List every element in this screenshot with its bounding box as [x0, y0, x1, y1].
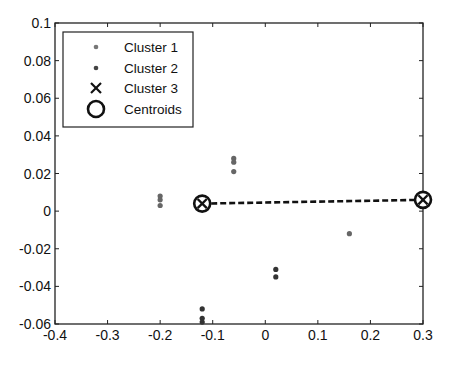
legend-label: Centroids — [124, 102, 182, 117]
x-tick-label: 0.2 — [361, 327, 381, 343]
series-cluster-2 — [200, 267, 279, 325]
legend-marker-icon — [94, 45, 99, 50]
x-tick-label: 0 — [261, 327, 269, 343]
x-tick-label: -0.1 — [201, 327, 225, 343]
x-tick-label: 0.3 — [413, 327, 433, 343]
y-tick-label: 0.06 — [24, 90, 51, 106]
y-tick-label: 0.1 — [32, 15, 52, 31]
dashed-connector-line — [202, 200, 423, 204]
y-tick-label: 0 — [43, 203, 51, 219]
legend-label: Cluster 1 — [124, 40, 178, 55]
y-tick-label: -0.02 — [19, 241, 51, 257]
y-tick-label: -0.06 — [19, 316, 51, 332]
y-tick-label: 0.08 — [24, 53, 51, 69]
legend-marker-icon — [94, 66, 99, 71]
y-tick-label: -0.04 — [19, 278, 51, 294]
centroid-connector — [202, 200, 423, 204]
x-tick-label: 0.1 — [308, 327, 328, 343]
y-tick-label: 0.04 — [24, 128, 51, 144]
legend-label: Cluster 3 — [124, 81, 178, 96]
data-points — [158, 156, 431, 325]
y-tick-label: 0.02 — [24, 166, 51, 182]
legend: Cluster 1Cluster 2Cluster 3Centroids — [63, 32, 193, 127]
legend-label: Cluster 2 — [124, 61, 178, 76]
series-cluster-1 — [158, 156, 352, 236]
x-tick-label: -0.3 — [96, 327, 120, 343]
x-tick-label: -0.2 — [148, 327, 172, 343]
scatter-chart: -0.4-0.3-0.2-0.100.10.20.3 0.10.080.060.… — [0, 0, 451, 368]
